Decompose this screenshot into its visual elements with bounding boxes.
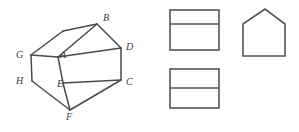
vertex-label-b: B [103,13,109,23]
net-faces [170,9,285,108]
figure-canvas: B D G A C H E F [0,0,299,132]
vertex-label-c: C [126,77,133,87]
edge-gable-g-to-a [31,55,58,57]
vertex-label-g: G [16,50,23,60]
edge-b-to-d [97,24,121,48]
vertex-label-d: D [126,42,133,52]
vertex-label-e: E [57,79,63,89]
vertex-label-h: H [16,76,23,86]
geometry-diagram [0,0,299,132]
vertex-label-a: A [60,50,66,60]
net-pentagon-gable [243,9,285,56]
edge-roof-ridge-left [31,31,63,55]
edge-e-to-c [63,80,121,83]
solid-prism-house [31,24,121,110]
edge-f-to-c [70,80,121,110]
edge-g-to-h [31,55,32,81]
vertex-label-f: F [66,112,72,122]
net-rectangle-top [170,10,219,50]
